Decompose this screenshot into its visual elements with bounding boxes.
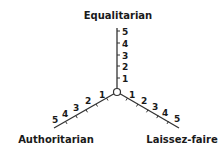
tick-label: 1 (129, 90, 135, 100)
tick-mark (147, 110, 149, 113)
tick-label: 2 (122, 62, 128, 72)
axis-title-equalitarian: Equalitarian (84, 10, 152, 21)
tick-label: 1 (122, 74, 128, 84)
tick-mark (96, 104, 98, 107)
tick-label: 2 (141, 96, 147, 106)
axis-title-authoritarian: Authoritarian (18, 134, 94, 145)
tick-label: 5 (174, 114, 180, 124)
tick-mark (137, 104, 139, 107)
origin-circle (114, 89, 121, 96)
tick-mark (76, 116, 78, 119)
tick-label: 5 (122, 27, 128, 37)
tick-label: 3 (73, 103, 79, 113)
tick-label: 3 (122, 51, 128, 61)
tick-label: 4 (122, 39, 128, 49)
tick-mark (126, 98, 128, 101)
tick-mark (157, 116, 159, 119)
axis-equalitarian: 1 2 3 4 5 Equalitarian (84, 10, 152, 89)
tick-label: 4 (62, 109, 68, 119)
axis-title-laissez-faire: Laissez-faire (146, 134, 218, 145)
tick-mark (86, 110, 88, 113)
axis-laissez-faire: 1 2 3 4 5 Laissez-faire (120, 90, 218, 145)
tick-label: 3 (152, 102, 158, 112)
tick-label: 1 (99, 90, 105, 100)
tri-axis-diagram: 1 2 3 4 5 Equalitarian 1 2 3 4 5 Authori… (0, 0, 223, 149)
tick-label: 5 (52, 115, 58, 125)
tick-label: 4 (162, 108, 168, 118)
tick-mark (66, 121, 68, 124)
tick-label: 2 (85, 96, 91, 106)
axis-authoritarian: 1 2 3 4 5 Authoritarian (18, 90, 114, 145)
tick-mark (107, 98, 109, 101)
